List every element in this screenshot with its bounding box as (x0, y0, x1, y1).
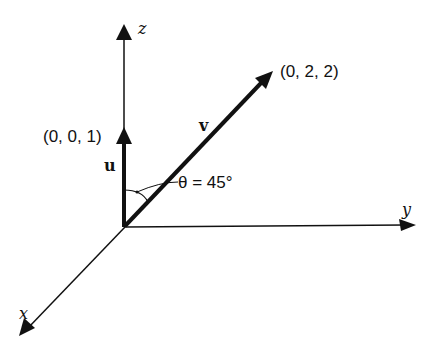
x-axis-label: x (19, 306, 28, 322)
vector-v-endpoint-label: (0, 2, 2) (280, 63, 339, 80)
vector-u-endpoint-label: (0, 0, 1) (43, 128, 102, 145)
vector-diagram: z y x (0, 0, 1) (0, 2, 2) u v θ = 45° (0, 0, 443, 353)
vector-v-label: v (199, 118, 208, 134)
vector-u-label: u (104, 158, 116, 174)
vector-u (116, 127, 132, 227)
y-axis-label: y (402, 202, 411, 218)
vector-v (125, 71, 273, 226)
y-axis (125, 219, 416, 231)
x-axis (19, 227, 125, 336)
angle-label: θ = 45° (178, 174, 233, 191)
z-axis-label: z (138, 21, 146, 37)
